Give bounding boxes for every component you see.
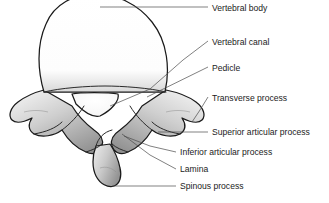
label-vertebral-canal: Vertebral canal	[212, 37, 269, 47]
label-transverse-process: Transverse process	[212, 93, 287, 103]
diagram-canvas: Vertebral body Vertebral canal Pedicle T…	[0, 0, 329, 203]
label-inferior-articular-process: Inferior articular process	[180, 147, 272, 157]
label-spinous-process: Spinous process	[180, 181, 244, 191]
label-pedicle: Pedicle	[212, 63, 240, 73]
label-superior-articular-process: Superior articular process	[212, 127, 310, 137]
label-lamina: Lamina	[180, 164, 208, 174]
label-vertebral-body: Vertebral body	[212, 3, 268, 13]
vertebra-diagram: Vertebral body Vertebral canal Pedicle T…	[0, 0, 329, 203]
